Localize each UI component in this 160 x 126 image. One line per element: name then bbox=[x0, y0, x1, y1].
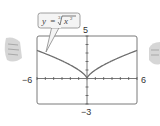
svg-text:y =: y = bbox=[41, 16, 55, 26]
equation-equals: = bbox=[50, 16, 55, 26]
right-hand-icon bbox=[149, 42, 160, 65]
left-hand-icon bbox=[5, 38, 22, 62]
ymax-label: 5 bbox=[83, 25, 88, 35]
ymin-label: −3 bbox=[81, 107, 91, 117]
xmax-label: 6 bbox=[141, 75, 146, 85]
xmin-label: −6 bbox=[22, 75, 32, 85]
equation-lhs: y bbox=[41, 16, 46, 26]
radicand: x bbox=[63, 16, 68, 26]
calculator-graph: y = 3 x 2 5 −6 6 −3 bbox=[0, 0, 160, 126]
